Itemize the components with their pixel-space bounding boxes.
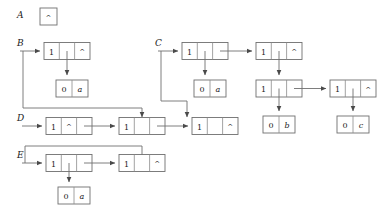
cell-value: 1 xyxy=(124,123,129,132)
cell-atom: b xyxy=(284,121,289,130)
node-b-leaf: 0 a xyxy=(56,80,88,97)
cell-nil-glyph: ^ xyxy=(154,160,160,168)
cell-value: 1 xyxy=(51,123,56,132)
cell-value: 1 xyxy=(261,48,266,57)
cell-nil-glyph: ^ xyxy=(66,123,72,131)
cell-atom: a xyxy=(216,85,221,94)
variable-label-c: C xyxy=(155,39,162,48)
wire-c-shared-to-d3 xyxy=(161,51,187,117)
node-a-nil: ^ xyxy=(40,8,57,25)
cell-value: 0 xyxy=(63,192,68,201)
variable-label-d: D xyxy=(17,114,24,123)
cell-nil-glyph: ^ xyxy=(46,14,52,22)
cell-value: 1 xyxy=(49,48,54,57)
cell-value: 1 xyxy=(51,160,56,169)
node-e-n2: 1 ^ xyxy=(119,155,165,172)
cell-value: 1 xyxy=(187,48,192,57)
cell-nil-glyph: ^ xyxy=(365,86,371,94)
cons-cell-diagram: ^ 1 ^ 0 a 1 0 a xyxy=(0,0,387,220)
cell-value: 0 xyxy=(61,85,66,94)
cell-nil-glyph: ^ xyxy=(291,48,297,56)
variable-label-a: A xyxy=(17,11,24,20)
cell-value: 1 xyxy=(124,160,129,169)
cell-value: 0 xyxy=(342,121,347,130)
cell-atom: c xyxy=(359,121,364,130)
cell-value: 1 xyxy=(335,85,340,94)
node-c-leaf-b: 0 b xyxy=(263,116,295,133)
cell-atom: a xyxy=(78,85,83,94)
node-e-leaf: 0 a xyxy=(58,187,90,204)
cell-nil-glyph: ^ xyxy=(227,123,233,131)
node-c-leaf: 0 a xyxy=(194,80,226,97)
cell-value: 1 xyxy=(261,85,266,94)
node-d-n3: 1 ^ xyxy=(192,118,238,135)
cell-atom: a xyxy=(80,192,85,201)
node-c-leaf-c: 0 c xyxy=(337,116,369,133)
cell-value: 0 xyxy=(268,121,273,130)
cell-nil-glyph: ^ xyxy=(79,48,85,56)
cell-value: 1 xyxy=(197,123,202,132)
variable-label-b: B xyxy=(17,39,24,48)
cell-value: 0 xyxy=(199,85,204,94)
variable-label-e: E xyxy=(17,151,24,160)
